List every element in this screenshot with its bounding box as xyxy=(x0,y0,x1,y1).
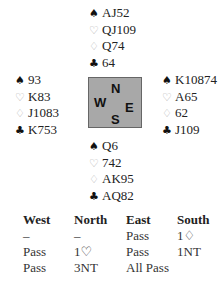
bid: 3NT xyxy=(74,260,126,276)
header-north: North xyxy=(74,212,126,228)
header-west: West xyxy=(23,212,74,228)
south-hearts: ♡742 xyxy=(89,155,134,172)
spade-icon: ♠ xyxy=(89,139,102,155)
south-hand: ♠Q6 ♡742 ♢AK95 ♣AQ82 xyxy=(89,138,134,204)
west-clubs: ♣K753 xyxy=(15,122,59,139)
auction-row: Pass 1♡ Pass 1NT xyxy=(23,244,222,260)
compass-north: N xyxy=(111,81,120,96)
north-diamonds: ♢Q74 xyxy=(89,38,136,55)
east-diamonds: ♢62 xyxy=(162,105,217,122)
bid: 1♡ xyxy=(74,244,126,260)
south-diamonds: ♢AK95 xyxy=(89,171,134,188)
east-hand: ♠K10874 ♡A65 ♢62 ♣J109 xyxy=(162,72,217,138)
bid: Pass xyxy=(23,244,74,260)
north-hearts: ♡QJ109 xyxy=(89,22,136,39)
bid: Pass xyxy=(126,244,177,260)
club-icon: ♣ xyxy=(162,123,175,139)
diamond-icon: ♢ xyxy=(15,106,28,122)
north-clubs: ♣64 xyxy=(89,55,136,72)
spade-icon: ♠ xyxy=(15,73,28,89)
bid: All Pass xyxy=(126,260,177,276)
west-spades: ♠93 xyxy=(15,72,59,89)
bid: Pass xyxy=(23,260,74,276)
auction-header: West North East South xyxy=(23,212,222,228)
bid xyxy=(177,260,222,276)
auction-table: West North East South – – Pass 1♢ Pass 1… xyxy=(23,212,222,276)
spade-icon: ♠ xyxy=(162,73,175,89)
auction-row: Pass 3NT All Pass xyxy=(23,260,222,276)
east-clubs: ♣J109 xyxy=(162,122,217,139)
west-hearts: ♡K83 xyxy=(15,89,59,106)
compass-west: W xyxy=(94,95,106,110)
compass-box: N W E S xyxy=(88,77,142,128)
bid: – xyxy=(23,228,74,244)
heart-icon: ♡ xyxy=(15,90,28,106)
header-south: South xyxy=(177,212,222,228)
west-hand: ♠93 ♡K83 ♢J1083 ♣K753 xyxy=(15,72,59,138)
bid: – xyxy=(74,228,126,244)
north-spades: ♠AJ52 xyxy=(89,5,136,22)
bid: 1NT xyxy=(177,244,222,260)
header-east: East xyxy=(126,212,177,228)
bid: Pass xyxy=(126,228,177,244)
auction-row: – – Pass 1♢ xyxy=(23,228,222,244)
compass-south: S xyxy=(111,112,120,127)
east-spades: ♠K10874 xyxy=(162,72,217,89)
diamond-icon: ♢ xyxy=(89,172,102,188)
south-spades: ♠Q6 xyxy=(89,138,134,155)
heart-icon: ♡ xyxy=(89,23,102,39)
bid: 1♢ xyxy=(177,228,222,244)
diamond-icon: ♢ xyxy=(162,106,175,122)
west-diamonds: ♢J1083 xyxy=(15,105,59,122)
south-clubs: ♣AQ82 xyxy=(89,188,134,205)
north-hand: ♠AJ52 ♡QJ109 ♢Q74 ♣64 xyxy=(89,5,136,71)
diamond-icon: ♢ xyxy=(89,39,102,55)
heart-icon: ♡ xyxy=(89,156,102,172)
club-icon: ♣ xyxy=(15,123,28,139)
east-hearts: ♡A65 xyxy=(162,89,217,106)
compass-east: E xyxy=(125,100,134,115)
heart-icon: ♡ xyxy=(162,90,175,106)
club-icon: ♣ xyxy=(89,56,102,72)
spade-icon: ♠ xyxy=(89,6,102,22)
club-icon: ♣ xyxy=(89,189,102,205)
